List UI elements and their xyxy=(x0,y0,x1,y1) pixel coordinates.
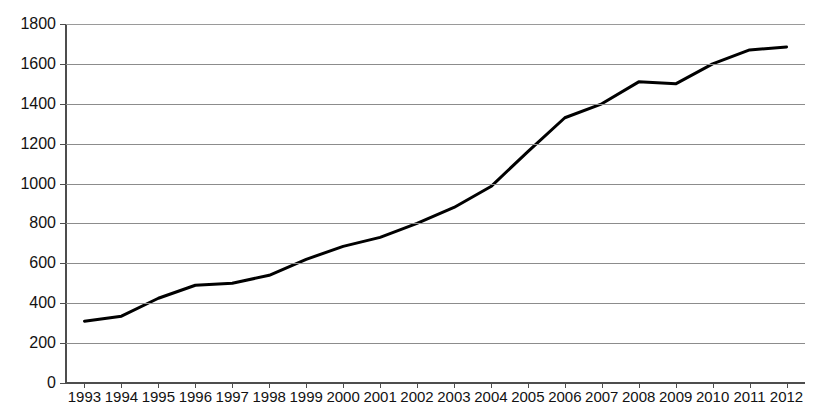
x-axis-tick-label: 1994 xyxy=(105,388,138,405)
y-axis-tick-mark xyxy=(60,263,66,264)
x-axis-tick-label: 2011 xyxy=(733,388,765,405)
gridline xyxy=(66,24,805,25)
x-axis-tick-label: 2001 xyxy=(363,388,396,405)
y-axis-tick-label: 1600 xyxy=(0,55,56,73)
y-axis-tick-label: 800 xyxy=(0,214,56,232)
y-axis-tick-mark xyxy=(60,64,66,65)
y-axis-tick-mark xyxy=(60,144,66,145)
gridline xyxy=(66,263,805,264)
plot-area xyxy=(66,24,805,383)
x-axis-tick-label: 1999 xyxy=(289,388,322,405)
gridline xyxy=(66,64,805,65)
y-axis-tick-label: 600 xyxy=(0,254,56,272)
x-axis-tick-label: 2002 xyxy=(400,388,433,405)
y-axis-tick-label: 1800 xyxy=(0,15,56,33)
y-axis-tick-mark xyxy=(60,383,66,384)
x-axis-tick-label: 2000 xyxy=(326,388,359,405)
x-axis-tick-label: 2003 xyxy=(437,388,470,405)
line-chart: 020040060080010001200140016001800 199319… xyxy=(0,0,833,412)
x-axis-tick-label: 1993 xyxy=(68,388,101,405)
x-axis-tick-label: 1997 xyxy=(216,388,249,405)
y-axis-tick-mark xyxy=(60,104,66,105)
x-axis-tick-label: 1996 xyxy=(179,388,212,405)
x-axis-tick-label: 2010 xyxy=(696,388,729,405)
y-axis-tick-mark xyxy=(60,343,66,344)
x-axis-tick-label: 2005 xyxy=(511,388,544,405)
x-axis-tick-label: 2004 xyxy=(474,388,507,405)
gridline xyxy=(66,144,805,145)
x-axis-tick-label: 1998 xyxy=(253,388,286,405)
x-axis-tick-label: 2009 xyxy=(659,388,692,405)
x-axis-tick-labels: 1993199419951996199719981999200020012002… xyxy=(66,388,805,410)
x-axis-tick-label: 2006 xyxy=(548,388,581,405)
x-axis-tick-label: 2008 xyxy=(622,388,655,405)
gridline xyxy=(66,343,805,344)
gridline xyxy=(66,303,805,304)
y-axis-tick-label: 1400 xyxy=(0,95,56,113)
y-axis-tick-label: 0 xyxy=(0,374,56,392)
chart-title xyxy=(0,0,833,2)
y-axis-tick-label: 1200 xyxy=(0,135,56,153)
series-line-svg xyxy=(66,24,805,383)
y-axis-tick-mark xyxy=(60,223,66,224)
gridline xyxy=(66,184,805,185)
x-axis-tick-label: 2012 xyxy=(770,388,803,405)
y-axis-tick-mark xyxy=(60,303,66,304)
x-axis-tick-label: 1995 xyxy=(142,388,175,405)
y-axis-tick-label: 200 xyxy=(0,334,56,352)
gridline xyxy=(66,223,805,224)
x-axis-tick-label: 2007 xyxy=(585,388,618,405)
gridline xyxy=(66,104,805,105)
y-axis-tick-mark xyxy=(60,24,66,25)
y-axis-tick-label: 400 xyxy=(0,294,56,312)
y-axis-tick-label: 1000 xyxy=(0,175,56,193)
y-axis-tick-mark xyxy=(60,184,66,185)
